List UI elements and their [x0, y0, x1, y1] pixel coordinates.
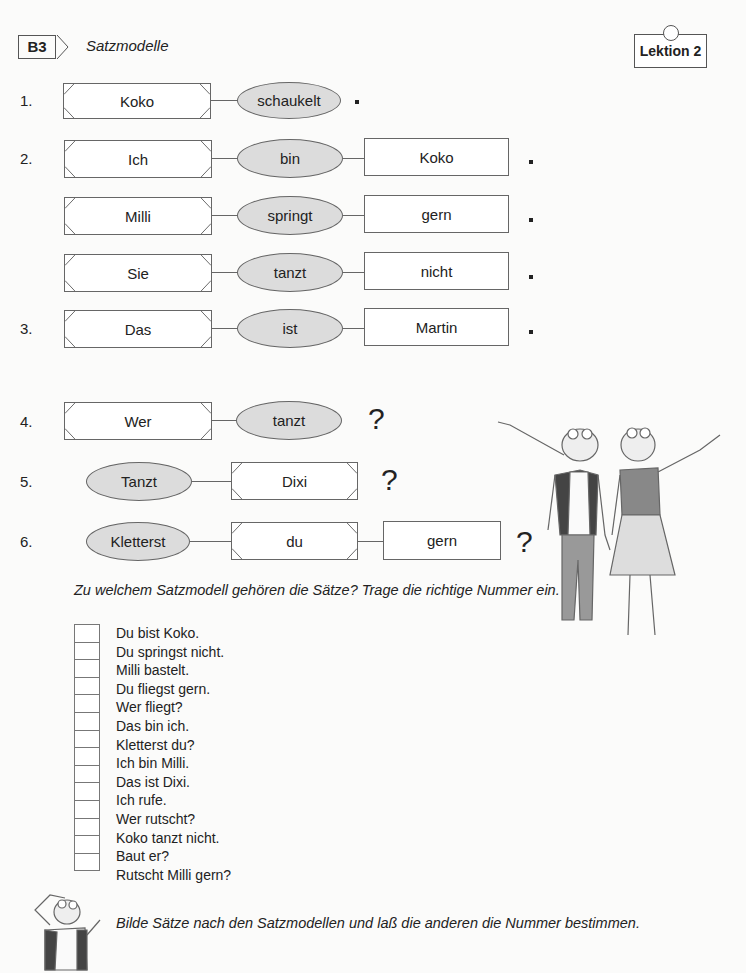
answer-box-3[interactable]: [74, 659, 100, 678]
subject-box: Sie: [64, 254, 212, 292]
connector-line: [343, 328, 364, 329]
connector-line: [192, 481, 231, 482]
subject-text: Ich: [128, 151, 148, 168]
model-number: 2.: [20, 150, 33, 167]
answer-box-5[interactable]: [74, 694, 100, 713]
model-number: 6.: [20, 533, 33, 550]
verb-ellipse: Tanzt: [86, 462, 192, 501]
object-box: Koko: [364, 138, 509, 176]
subject-box: Koko: [63, 83, 211, 119]
section-title: Satzmodelle: [86, 37, 169, 54]
connector-line: [212, 158, 237, 159]
sentence-item: Rutscht Milli gern?: [116, 866, 231, 885]
frog-characters-illustration: [490, 400, 730, 650]
lesson-ring-icon: [663, 25, 679, 41]
connector-line: [190, 541, 231, 542]
sentence-item: Du springst nicht.: [116, 643, 231, 662]
section-tag-arrow-icon: [56, 35, 70, 59]
subject-box: Ich: [64, 140, 212, 178]
object-box: nicht: [364, 252, 509, 290]
answer-box-4[interactable]: [74, 677, 100, 696]
section-tag: B3: [18, 35, 56, 59]
connector-line: [343, 158, 364, 159]
answer-boxes: [74, 624, 100, 871]
answer-box-2[interactable]: [74, 642, 100, 661]
thinking-frog-illustration: [15, 890, 105, 973]
sentence-list: Du bist Koko. Du springst nicht. Milli b…: [116, 624, 231, 884]
answer-box-13[interactable]: [74, 835, 100, 854]
sentence-item: Du fliegst gern.: [116, 680, 231, 699]
sentence-item: Ich bin Milli.: [116, 754, 231, 773]
model-number: 4.: [20, 413, 33, 430]
verb-ellipse: springt: [237, 196, 343, 235]
answer-box-9[interactable]: [74, 765, 100, 784]
connector-line: [358, 541, 383, 542]
connector-line: [212, 215, 237, 216]
period-mark: [529, 160, 533, 164]
sentence-item: Baut er?: [116, 847, 231, 866]
subject-text: Milli: [125, 208, 151, 225]
question-mark: ?: [381, 465, 398, 495]
period-mark: [529, 218, 533, 222]
verb-ellipse: bin: [237, 139, 343, 178]
sentence-item: Ich rufe.: [116, 791, 231, 810]
sentence-item: Milli bastelt.: [116, 661, 231, 680]
subject-text: Das: [125, 321, 152, 338]
object-box: gern: [383, 521, 501, 560]
subject-text: Dixi: [282, 473, 307, 490]
verb-ellipse: ist: [237, 309, 343, 348]
subject-text: Sie: [127, 265, 149, 282]
verb-ellipse: tanzt: [236, 401, 342, 440]
answer-box-1[interactable]: [74, 624, 100, 643]
verb-ellipse: tanzt: [237, 253, 343, 292]
subject-text: du: [286, 533, 303, 550]
model-number: 5.: [20, 473, 33, 490]
sentence-item: Du bist Koko.: [116, 624, 231, 643]
subject-box: du: [231, 522, 358, 560]
answer-box-11[interactable]: [74, 800, 100, 819]
connector-line: [211, 100, 237, 101]
answer-box-6[interactable]: [74, 712, 100, 731]
sentence-item: Kletterst du?: [116, 736, 231, 755]
footer-instruction: Bilde Sätze nach den Satzmodellen und la…: [116, 915, 640, 931]
answer-box-10[interactable]: [74, 782, 100, 801]
answer-box-14[interactable]: [74, 853, 100, 872]
period-mark: [529, 275, 533, 279]
answer-box-12[interactable]: [74, 818, 100, 837]
subject-box: Das: [64, 310, 212, 348]
connector-line: [343, 272, 364, 273]
subject-box: Dixi: [231, 462, 358, 500]
object-box: Martin: [364, 308, 509, 346]
connector-line: [212, 328, 237, 329]
sentence-item: Das bin ich.: [116, 717, 231, 736]
object-box: gern: [364, 195, 509, 233]
sentence-item: Wer rutscht?: [116, 810, 231, 829]
question-mark: ?: [368, 404, 385, 434]
connector-line: [212, 420, 236, 421]
subject-box: Milli: [64, 197, 212, 235]
subject-box: Wer: [64, 402, 212, 440]
verb-ellipse: schaukelt: [237, 82, 341, 119]
model-number: 3.: [20, 320, 33, 337]
sentence-item: Koko tanzt nicht.: [116, 829, 231, 848]
connector-line: [212, 272, 237, 273]
answer-box-7[interactable]: [74, 730, 100, 749]
sentence-item: Wer fliegt?: [116, 698, 231, 717]
connector-line: [343, 215, 364, 216]
sentence-item: Das ist Dixi.: [116, 773, 231, 792]
model-number: 1.: [20, 92, 33, 109]
period-mark: [529, 330, 533, 334]
exercise-instruction: Zu welchem Satzmodell gehören die Sätze?…: [74, 582, 560, 598]
subject-text: Koko: [120, 93, 154, 110]
period-mark: [355, 100, 359, 104]
answer-box-8[interactable]: [74, 747, 100, 766]
verb-ellipse: Kletterst: [86, 522, 190, 561]
subject-text: Wer: [124, 413, 151, 430]
